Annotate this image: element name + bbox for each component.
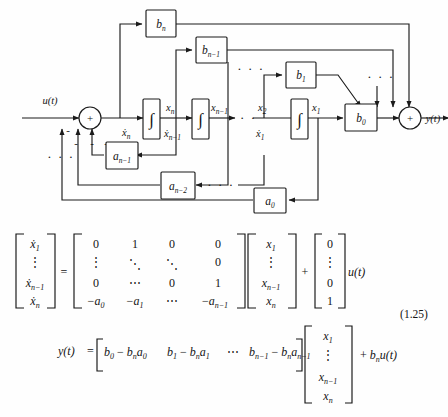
output-eq-equals: = (87, 344, 94, 358)
wire-b1-to-sum (315, 75, 361, 107)
A-matrix-right-bracket (237, 234, 245, 308)
out-x-1-entry: x1 (322, 329, 332, 345)
A-r3c0: −a0 (88, 294, 105, 310)
b-1-block[interactable]: b1 (286, 62, 316, 88)
ellipsis-upper-taps: · · · (237, 61, 265, 76)
ellipsis-feedback-row: · · · (207, 177, 235, 192)
sign-mark-1: - (66, 124, 70, 136)
label-x-1: x1 (311, 102, 320, 116)
a-n-1-block[interactable]: an−1 (106, 142, 138, 169)
label-output-y: y(t) (425, 113, 441, 125)
B-vector-left-bracket (315, 234, 322, 308)
out-x-n-entry: xn (322, 389, 332, 405)
xdot-vector-left-bracket (16, 234, 24, 308)
out-x-n-1-entry: xn−1 (318, 370, 338, 386)
x-1-entry: x1 (265, 237, 275, 253)
output-eq-lhs: y(t) (57, 344, 75, 358)
label-x-2: x2 (257, 102, 267, 116)
B-r1: ⋮ (324, 255, 336, 269)
A-r0c2: 0 (169, 237, 175, 251)
tap-to-b1 (264, 75, 282, 118)
xdot-1-entry: ẋ1 (29, 237, 39, 253)
label-x-n-1: xn−1 (210, 102, 228, 116)
C-entry-3: bn−1 − bnan−1 (249, 345, 311, 361)
output-summer[interactable]: + (399, 107, 421, 129)
block-diagram: + - - - - + ∫ ∫ ∫ bn bn (0, 0, 448, 222)
x-n-1-entry: xn−1 (261, 276, 281, 292)
out-x-vdots-entry: ⋮ (322, 348, 334, 362)
ellipsis-forward-path: · · · (229, 110, 257, 125)
A-matrix-left-bracket (74, 234, 82, 308)
a-0-block[interactable]: a0 (254, 188, 286, 213)
x-n-entry: xn (265, 294, 275, 310)
state-vector-left-bracket (248, 234, 256, 308)
b-0-block[interactable]: b0 (345, 104, 377, 131)
A-r2c2: 0 (169, 276, 175, 290)
input-summer-plus: + (87, 112, 93, 124)
xdot-vdots-entry: ⋮ (29, 255, 41, 269)
C-entry-2: ⋯ (227, 345, 239, 359)
A-r2c0: 0 (93, 276, 99, 290)
output-state-vector-left-bracket (305, 326, 312, 403)
A-r0c1: 1 (132, 237, 138, 251)
state-eq-equals: = (61, 265, 68, 279)
sign-mark-3: - (90, 137, 94, 149)
C-vector-left-bracket (97, 339, 103, 371)
A-r2c1: ⋯ (129, 276, 141, 290)
input-summer[interactable]: + (79, 107, 101, 129)
ellipsis-summer-feedback: · · · (47, 149, 75, 164)
A-r1c3: 0 (215, 255, 221, 269)
label-xdot-n-1: ẋn−1 (163, 128, 181, 142)
output-state-vector-right-bracket (345, 326, 352, 403)
output-equation: y(t) = b0 − bna0 b1 − bna1 ⋯ bn−1 − bnan… (57, 326, 397, 405)
A-r3c1: −a1 (127, 294, 144, 310)
wire-an2-ellipsis-corner (238, 155, 264, 185)
xdot-vector-right-bracket (47, 234, 55, 308)
label-input-u: u(t) (42, 95, 58, 107)
equation-block: ẋ1 ⋮ ẋn−1 ẋn = 0 1 0 0 ⋮ ⋱ ⋱ 0 0 ⋯ 0 1 (0, 222, 448, 417)
integrator-n-1[interactable]: ∫ (192, 99, 209, 139)
state-eq-input-term: u(t) (348, 265, 365, 279)
A-r0c0: 0 (93, 237, 99, 251)
integrator-n[interactable]: ∫ (143, 99, 160, 139)
equation-number: (1.25) (400, 308, 428, 321)
figure-page: + - - - - + ∫ ∫ ∫ bn bn (0, 0, 448, 417)
A-r3c3: −an−1 (202, 294, 228, 310)
C-entry-0: b0 − bna0 (104, 345, 147, 361)
integrator-1[interactable]: ∫ (291, 99, 308, 139)
state-eq-plus: + (302, 265, 309, 279)
A-r0c3: 0 (215, 237, 221, 251)
A-r3c2: ⋯ (166, 294, 178, 308)
B-r2: 0 (327, 276, 333, 290)
a-n-2-block[interactable]: an−2 (161, 172, 195, 199)
B-vector-right-bracket (338, 234, 345, 308)
label-xdot-n: ẋn (121, 127, 131, 141)
C-entry-1: b1 − bna1 (167, 345, 210, 361)
label-x-n: xn (165, 102, 175, 116)
B-r0: 0 (327, 237, 333, 251)
A-r2c3: 1 (215, 276, 221, 290)
b-n-1-block[interactable]: bn−1 (196, 37, 227, 63)
state-vector-right-bracket (288, 234, 296, 308)
A-r1c0: ⋮ (90, 255, 102, 269)
xdot-n-1-entry: ẋn−1 (25, 276, 45, 292)
B-r3: 1 (327, 294, 333, 308)
output-eq-feedthrough: + bnu(t) (360, 348, 397, 364)
xdot-n-entry: ẋn (29, 294, 39, 310)
state-equation: ẋ1 ⋮ ẋn−1 ẋn = 0 1 0 0 ⋮ ⋱ ⋱ 0 0 ⋯ 0 1 (16, 234, 365, 310)
A-r1c1: ⋱ (129, 257, 141, 271)
output-summer-plus: + (407, 112, 413, 124)
sign-mark-2: - (74, 137, 78, 149)
tap-to-bn1 (176, 50, 192, 118)
label-xdot-1: ẋ1 (255, 128, 264, 142)
tap-to-bn (120, 24, 142, 118)
b-n-block[interactable]: bn (146, 10, 176, 37)
A-r1c2: ⋱ (166, 257, 178, 271)
x-vdots-entry: ⋮ (265, 255, 277, 269)
ellipsis-summer-inputs: · · · (367, 69, 395, 84)
